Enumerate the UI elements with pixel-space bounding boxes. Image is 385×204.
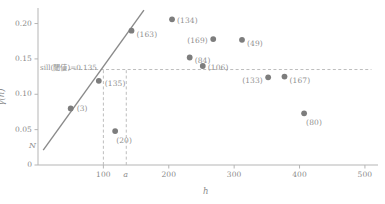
data-point <box>239 37 245 43</box>
data-point <box>282 74 288 80</box>
data-point <box>210 36 216 42</box>
data-point <box>265 74 271 80</box>
variogram-chart: 00.050.100.150.20 100200300400500 (3)(13… <box>0 0 385 204</box>
data-point <box>301 110 307 116</box>
x-axis-ticks <box>103 165 365 169</box>
data-point <box>96 78 102 84</box>
data-point <box>169 16 175 22</box>
data-point <box>68 106 74 112</box>
data-point <box>200 63 206 69</box>
chart-canvas <box>0 0 385 204</box>
y-axis-ticks <box>35 24 39 165</box>
data-point <box>187 55 193 61</box>
data-point <box>112 128 118 134</box>
data-point <box>129 28 135 34</box>
